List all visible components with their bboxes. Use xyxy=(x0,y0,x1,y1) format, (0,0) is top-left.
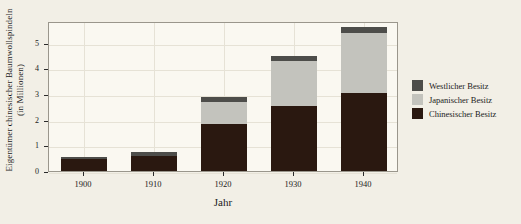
x-tick-mark xyxy=(153,172,154,176)
y-tick-label: 0 xyxy=(21,167,39,176)
legend-swatch xyxy=(412,108,423,119)
x-tick-mark xyxy=(363,172,364,176)
chart-figure: Eigentümer chinesischer Baumwollspindeln… xyxy=(0,0,521,224)
y-tick-mark xyxy=(44,44,48,45)
bar-segment xyxy=(341,27,387,32)
legend-item: Chinesischer Besitz xyxy=(412,107,517,120)
bar-segment xyxy=(271,106,317,171)
bar-1910 xyxy=(131,21,177,171)
bar-segment xyxy=(61,157,107,160)
legend-item: Westlicher Besitz xyxy=(412,79,517,92)
bar-segment xyxy=(341,33,387,93)
plot-area xyxy=(48,22,398,172)
x-tick-label: 1920 xyxy=(203,179,243,189)
y-axis-title-line1: Eigentümer chinesischer Baumwollspindeln xyxy=(4,9,15,172)
y-tick-label: 3 xyxy=(21,90,39,99)
x-tick-mark xyxy=(293,172,294,176)
bar-segment xyxy=(201,124,247,171)
x-axis-title: Jahr xyxy=(48,196,398,208)
x-tick-label: 1930 xyxy=(273,179,313,189)
legend-swatch xyxy=(412,94,423,105)
y-tick-label: 4 xyxy=(21,64,39,73)
x-tick-label: 1940 xyxy=(343,179,383,189)
bar-segment xyxy=(341,93,387,171)
legend-label: Chinesischer Besitz xyxy=(429,109,496,119)
y-tick-mark xyxy=(44,121,48,122)
chart-legend: Westlicher BesitzJapanischer BesitzChine… xyxy=(412,79,517,121)
y-tick-mark xyxy=(44,146,48,147)
bar-1920 xyxy=(201,21,247,171)
bar-segment xyxy=(271,56,317,61)
y-tick-label: 2 xyxy=(21,116,39,125)
bar-segment xyxy=(61,159,107,171)
bar-segment xyxy=(131,156,177,171)
y-tick-label: 5 xyxy=(21,39,39,48)
bar-segment xyxy=(201,97,247,102)
bar-segment xyxy=(201,102,247,124)
y-tick-mark xyxy=(44,69,48,70)
x-tick-label: 1910 xyxy=(133,179,173,189)
legend-item: Japanischer Besitz xyxy=(412,93,517,106)
y-tick-mark xyxy=(44,95,48,96)
legend-swatch xyxy=(412,80,423,91)
bar-segment xyxy=(131,152,177,156)
legend-label: Japanischer Besitz xyxy=(429,95,492,105)
bar-1930 xyxy=(271,21,317,171)
y-tick-mark xyxy=(44,172,48,173)
bar-1900 xyxy=(61,21,107,171)
legend-label: Westlicher Besitz xyxy=(429,81,489,91)
x-tick-mark xyxy=(223,172,224,176)
bar-1940 xyxy=(341,21,387,171)
x-tick-label: 1900 xyxy=(63,179,103,189)
y-tick-label: 1 xyxy=(21,141,39,150)
x-tick-mark xyxy=(83,172,84,176)
bar-segment xyxy=(271,61,317,106)
